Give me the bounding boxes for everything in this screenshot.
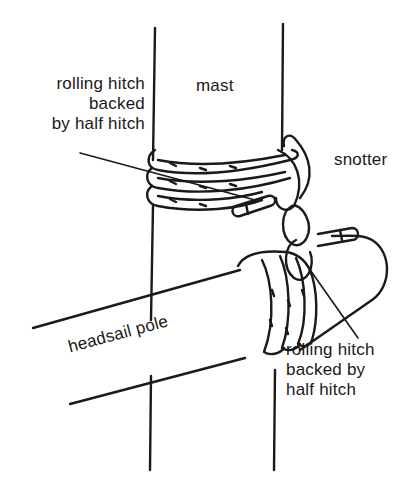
label-line: half hitch xyxy=(286,380,416,400)
diagram-canvas: rolling hitch backed by half hitch mast … xyxy=(0,0,419,478)
label-line: backed by xyxy=(286,360,416,380)
label-line: backed xyxy=(0,94,145,114)
label-snotter: snotter xyxy=(334,150,387,170)
snotter-loops xyxy=(283,205,358,279)
label-mast: mast xyxy=(196,76,234,96)
label-line: by half hitch xyxy=(0,114,145,134)
label-line: rolling hitch xyxy=(0,74,145,94)
upper-rolling-hitch xyxy=(147,136,309,217)
label-line: rolling hitch xyxy=(286,340,416,360)
label-upper-rolling-hitch: rolling hitch backed by half hitch xyxy=(0,74,145,134)
knot-diagram-drawing xyxy=(0,0,419,478)
label-lower-rolling-hitch: rolling hitch backed by half hitch xyxy=(286,340,416,400)
lower-rolling-hitch xyxy=(238,252,316,355)
